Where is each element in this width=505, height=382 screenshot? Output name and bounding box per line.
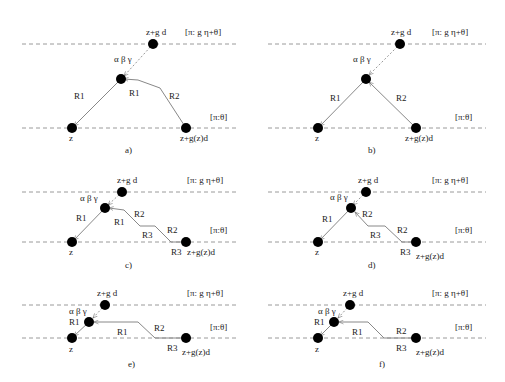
- top-node: [117, 187, 127, 197]
- edge-right-to-vertex: [369, 82, 416, 128]
- panel-d: z+g d [π: g η+θ] α β γ R1 R2 R3 R2 R3 [π…: [268, 175, 486, 270]
- bottom-level-label: [π:θ]: [455, 322, 472, 332]
- edge-vertex-to-z: [320, 208, 351, 240]
- right-node: [181, 123, 191, 133]
- right-node-label: z+g(z)d: [405, 133, 434, 143]
- top-level-label: [π: g η+θ]: [187, 288, 223, 298]
- panel-e: z+g d [π: g η+θ] α β γ R1 R1 R2 R3 [π:θ]…: [22, 288, 238, 369]
- vertex-node: [361, 74, 371, 84]
- vertex-node: [329, 317, 339, 327]
- edge-label: R2: [396, 93, 407, 103]
- z-label: z: [69, 247, 73, 257]
- vertex-node: [84, 317, 94, 327]
- z-node: [67, 333, 77, 343]
- z-node: [67, 123, 77, 133]
- panel-c: z+g d [π: g η+θ] α β γ R1 R1 R2 R3 R2 R3…: [22, 175, 238, 270]
- vertex-label: α β γ: [80, 193, 98, 203]
- edge-label: R3: [171, 247, 182, 257]
- panel-caption: b): [368, 145, 376, 155]
- edge-label: R3: [400, 247, 411, 257]
- top-node-label: z+g d: [343, 288, 364, 298]
- z-node: [67, 237, 77, 247]
- edge-label: R1: [69, 317, 80, 327]
- top-node-label: z+g d: [391, 27, 412, 37]
- right-node: [411, 237, 421, 247]
- top-node: [148, 39, 158, 49]
- right-node-label: z+g(z)d: [416, 251, 445, 261]
- edge-label: R2: [134, 209, 145, 219]
- vertex-node: [116, 74, 126, 84]
- z-label: z: [315, 247, 319, 257]
- edge-label: R1: [352, 327, 363, 337]
- z-label: z: [315, 344, 319, 354]
- z-label: z: [69, 133, 73, 143]
- bottom-level-label: [π:θ]: [210, 112, 227, 122]
- edge-label: R1: [117, 327, 128, 337]
- right-node: [411, 333, 421, 343]
- right-node-label: z+g(z)d: [187, 247, 216, 257]
- vertex-node: [100, 203, 110, 213]
- edge-vertex-to-z: [74, 79, 121, 126]
- edge-label: R3: [142, 230, 153, 240]
- right-node: [181, 237, 191, 247]
- panel-caption: c): [125, 260, 132, 270]
- edge-label: R1: [76, 213, 87, 223]
- panel-a: z+g d [π: g η+θ] α β γ R1 R1 R2 [π:θ] z …: [22, 27, 238, 155]
- top-level-label: [π: g η+θ]: [185, 27, 221, 37]
- panel-caption: d): [368, 260, 376, 270]
- edge-label: R2: [154, 323, 165, 333]
- edge-label: R1: [129, 88, 140, 98]
- z-label: z: [315, 133, 319, 143]
- panel-caption: a): [125, 145, 132, 155]
- top-level-label: [π: g η+θ]: [187, 175, 223, 185]
- right-node-label: z+g(z)d: [180, 133, 209, 143]
- z-node: [313, 123, 323, 133]
- edge-label: R2: [396, 326, 407, 336]
- vertex-label: α β γ: [318, 306, 336, 316]
- edge-label: R2: [167, 225, 178, 235]
- edge-label: R1: [322, 214, 333, 224]
- z-node: [313, 333, 323, 343]
- right-node: [411, 123, 421, 133]
- panel-caption: f): [379, 359, 385, 369]
- top-node-label: z+g d: [146, 27, 167, 37]
- vertex-label: α β γ: [353, 54, 371, 64]
- top-node: [345, 300, 355, 310]
- edge-label: R2: [397, 225, 408, 235]
- vertex-node: [346, 203, 356, 213]
- right-node-label: z+g(z)d: [416, 347, 445, 357]
- vertex-label: α β γ: [114, 54, 132, 64]
- edge-right-to-vertex: [94, 322, 186, 338]
- edge-vertex-to-z: [320, 79, 366, 126]
- top-level-label: [π: g η+θ]: [432, 288, 468, 298]
- panel-f: z+g d [π: g η+θ] α β γ R1 R1 R2 R3 [π:θ]…: [268, 288, 486, 369]
- vertex-label: α β γ: [69, 306, 87, 316]
- top-node: [100, 300, 110, 310]
- top-node-label: z+g d: [117, 175, 138, 185]
- bottom-level-label: [π:θ]: [455, 225, 472, 235]
- edge-label: R3: [167, 343, 178, 353]
- bottom-level-label: [π:θ]: [455, 112, 472, 122]
- z-label: z: [69, 344, 73, 354]
- z-node: [313, 237, 323, 247]
- edge-label: R3: [370, 230, 381, 240]
- edge-label: R1: [314, 317, 325, 327]
- top-node: [361, 187, 371, 197]
- panel-caption: e): [128, 359, 135, 369]
- edge-label: R1: [330, 93, 341, 103]
- bottom-level-label: [π:θ]: [210, 322, 227, 332]
- edge-top-to-vertex: [369, 44, 400, 75]
- panel-b: z+g d [π: g η+θ] α β γ R1 R2 [π:θ] z z+g…: [268, 27, 486, 155]
- diagram-canvas: z+g d [π: g η+θ] α β γ R1 R1 R2 [π:θ] z …: [0, 0, 505, 382]
- vertex-label: α β γ: [330, 192, 348, 202]
- top-node-label: z+g d: [358, 175, 379, 185]
- edge-label: R1: [114, 217, 125, 227]
- top-node-label: z+g d: [97, 288, 118, 298]
- edge-label: R3: [396, 343, 407, 353]
- edge-right-to-vertex: [124, 79, 186, 128]
- edge-label: R2: [362, 209, 373, 219]
- edge-label: R2: [169, 91, 180, 101]
- top-node: [395, 39, 405, 49]
- top-level-label: [π: g η+θ]: [432, 175, 468, 185]
- top-level-label: [π: g η+θ]: [432, 27, 468, 37]
